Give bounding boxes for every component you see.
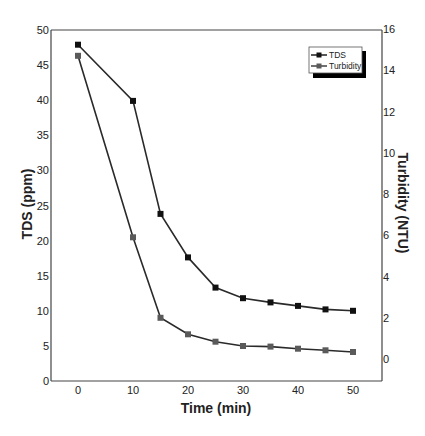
data-point-marker <box>268 344 274 350</box>
left-y-tick-label: 25 <box>37 200 49 212</box>
left-y-tick-label: 5 <box>43 340 49 352</box>
series-lines <box>75 42 356 355</box>
plot-frame <box>51 30 382 381</box>
right-y-axis-ticks: 0246810121416 <box>383 23 395 365</box>
left-y-tick-label: 0 <box>43 375 49 387</box>
right-y-axis-title: Turbidity (NTU) <box>395 153 411 254</box>
data-point-marker <box>158 315 164 321</box>
data-point-marker <box>268 299 274 305</box>
right-y-tick-label: 6 <box>383 229 389 241</box>
data-point-marker <box>130 98 136 104</box>
left-y-tick-label: 40 <box>37 94 49 106</box>
x-tick-label: 10 <box>127 384 139 396</box>
data-point-marker <box>350 349 356 355</box>
data-point-marker <box>350 308 356 314</box>
left-y-tick-label: 30 <box>37 164 49 176</box>
legend: TDS Turbidity <box>309 47 366 78</box>
right-y-tick-label: 12 <box>383 106 395 118</box>
x-tick-label: 50 <box>347 384 359 396</box>
left-y-tick-label: 45 <box>37 59 49 71</box>
left-y-tick-label: 35 <box>37 129 49 141</box>
x-axis-title: Time (min) <box>181 400 252 416</box>
data-point-marker <box>75 53 81 59</box>
right-y-tick-label: 0 <box>383 353 389 365</box>
series-tds <box>75 42 356 314</box>
data-point-marker <box>240 343 246 349</box>
right-y-tick-label: 4 <box>383 271 389 283</box>
x-tick-label: 20 <box>182 384 194 396</box>
left-y-axis-ticks: 05101520253035404550 <box>37 24 49 387</box>
series-line-tds <box>78 45 353 311</box>
data-point-marker <box>213 339 219 345</box>
series-turbidity <box>75 53 356 355</box>
data-point-marker <box>130 234 136 240</box>
data-point-marker <box>323 347 329 353</box>
x-axis-ticks: 01020304050 <box>75 384 359 396</box>
legend-label-turbidity: Turbidity <box>329 61 362 71</box>
data-point-marker <box>295 346 301 352</box>
data-point-marker <box>185 331 191 337</box>
x-tick-label: 30 <box>237 384 249 396</box>
left-y-tick-label: 10 <box>37 305 49 317</box>
legend-label-tds: TDS <box>329 50 346 60</box>
x-tick-label: 0 <box>75 384 81 396</box>
right-y-tick-label: 14 <box>383 64 395 76</box>
data-point-marker <box>240 295 246 301</box>
x-tick-label: 40 <box>292 384 304 396</box>
left-y-tick-label: 15 <box>37 270 49 282</box>
data-point-marker <box>75 42 81 48</box>
left-y-axis-title: TDS (ppm) <box>19 169 35 240</box>
right-y-tick-label: 8 <box>383 188 389 200</box>
right-y-tick-label: 2 <box>383 312 389 324</box>
data-point-marker <box>185 254 191 260</box>
chart: 05101520253035404550 0246810121416 01020… <box>0 0 425 436</box>
data-point-marker <box>295 303 301 309</box>
data-point-marker <box>213 285 219 291</box>
legend-marker-tds <box>317 53 322 58</box>
left-y-tick-label: 50 <box>37 24 49 36</box>
data-point-marker <box>158 211 164 217</box>
right-y-tick-label: 16 <box>383 23 395 35</box>
data-point-marker <box>323 306 329 312</box>
right-y-tick-label: 10 <box>383 147 395 159</box>
legend-marker-turbidity <box>317 64 322 69</box>
left-y-tick-label: 20 <box>37 235 49 247</box>
